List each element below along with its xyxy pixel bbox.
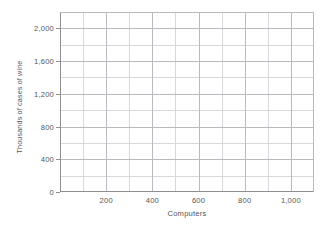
x-axis-title: Computers <box>60 209 314 218</box>
plot-area <box>60 12 314 192</box>
y-axis-tick-label: 1,600 <box>0 57 54 66</box>
y-axis-tick-label: 0 <box>0 188 54 197</box>
y-axis-tick-label: 800 <box>0 122 54 131</box>
x-axis-tick-label: 600 <box>179 196 219 205</box>
y-axis-tick-label: 400 <box>0 155 54 164</box>
x-axis-tick-label: 400 <box>132 196 172 205</box>
y-axis-tick-mark <box>56 192 60 193</box>
y-axis-title: Thousands of cases of wine <box>13 17 27 197</box>
y-axis-tick-label: 2,000 <box>0 24 54 33</box>
y-axis-tick-label: 1,200 <box>0 89 54 98</box>
x-axis-tick-label: 200 <box>86 196 126 205</box>
x-axis-tick-label: 800 <box>225 196 265 205</box>
grid-svg <box>60 12 314 192</box>
chart-container: Thousands of cases of wine 04008001,2001… <box>0 0 328 234</box>
x-axis-tick-label: 1,000 <box>271 196 311 205</box>
